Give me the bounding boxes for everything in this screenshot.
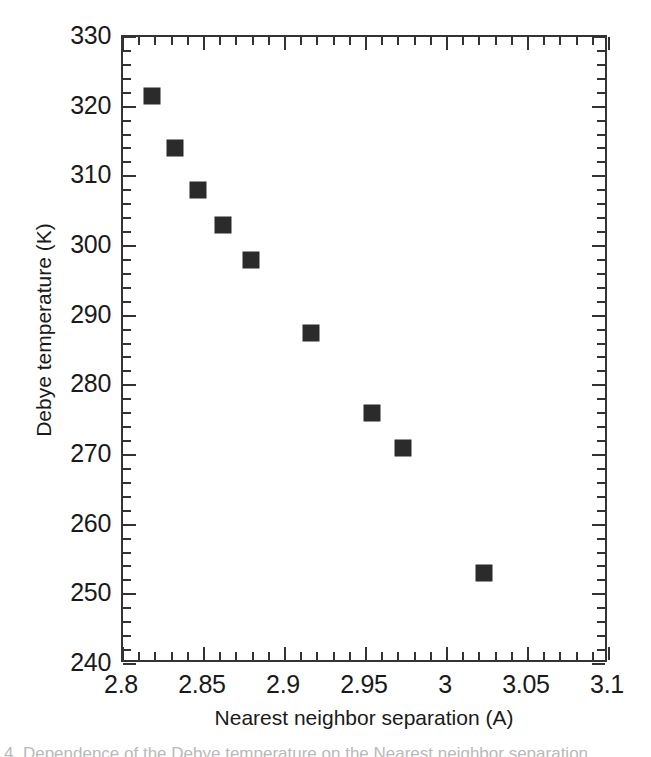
x-axis-minor-tick bbox=[430, 652, 432, 660]
y-axis-right-minor-tick bbox=[597, 468, 605, 470]
y-axis-minor-tick bbox=[123, 496, 131, 498]
x-axis-top-minor-tick bbox=[397, 37, 399, 45]
y-axis-right-minor-tick bbox=[597, 482, 605, 484]
y-axis-minor-tick bbox=[123, 343, 131, 345]
y-axis-tick-label: 250 bbox=[70, 580, 111, 605]
x-axis-top-major-tick bbox=[446, 37, 448, 50]
y-axis-right-minor-tick bbox=[597, 538, 605, 540]
y-axis-right-minor-tick bbox=[597, 92, 605, 94]
y-axis-right-minor-tick bbox=[597, 203, 605, 205]
x-axis-minor-tick bbox=[219, 652, 221, 660]
x-axis-top-minor-tick bbox=[559, 37, 561, 45]
y-axis-tick-label: 330 bbox=[70, 23, 111, 48]
x-axis-tick-label: 2.85 bbox=[178, 672, 225, 697]
x-axis-minor-tick bbox=[381, 652, 383, 660]
x-axis-tick-label: 3.05 bbox=[502, 672, 549, 697]
x-axis-minor-tick bbox=[397, 652, 399, 660]
y-axis-major-tick bbox=[123, 175, 136, 177]
y-axis-minor-tick bbox=[123, 412, 131, 414]
figure-caption-fragment: 4. Dependence of the Debye temperature o… bbox=[4, 744, 647, 757]
x-axis-top-minor-tick bbox=[171, 37, 173, 45]
y-axis-right-minor-tick bbox=[597, 607, 605, 609]
data-point-marker bbox=[189, 182, 206, 199]
y-axis-title: Debye temperature (K) bbox=[32, 50, 56, 610]
y-axis-minor-tick bbox=[123, 607, 131, 609]
y-axis-right-minor-tick bbox=[597, 120, 605, 122]
y-axis-right-minor-tick bbox=[597, 161, 605, 163]
y-axis-right-minor-tick bbox=[597, 440, 605, 442]
y-axis-minor-tick bbox=[123, 621, 131, 623]
x-axis-minor-tick bbox=[252, 652, 254, 660]
x-axis-minor-tick bbox=[495, 652, 497, 660]
x-axis-top-minor-tick bbox=[300, 37, 302, 45]
y-axis-right-minor-tick bbox=[597, 510, 605, 512]
x-axis-top-minor-tick bbox=[495, 37, 497, 45]
y-axis-minor-tick bbox=[123, 134, 131, 136]
y-axis-right-minor-tick bbox=[597, 147, 605, 149]
y-axis-major-tick bbox=[123, 106, 136, 108]
data-point-marker bbox=[302, 325, 319, 342]
y-axis-major-tick bbox=[123, 384, 136, 386]
y-axis-major-tick bbox=[123, 593, 136, 595]
x-axis-minor-tick bbox=[511, 652, 513, 660]
y-axis-major-tick bbox=[123, 454, 136, 456]
y-axis-minor-tick bbox=[123, 161, 131, 163]
y-axis-major-tick bbox=[123, 663, 136, 665]
x-axis-tick-label: 2.9 bbox=[266, 672, 300, 697]
figure: 240250260270280290300310320330 Debye tem… bbox=[0, 0, 651, 757]
y-axis-minor-tick bbox=[123, 189, 131, 191]
y-axis-minor-tick bbox=[123, 301, 131, 303]
x-axis-top-minor-tick bbox=[478, 37, 480, 45]
x-axis-title: Nearest neighbor separation (A) bbox=[121, 706, 607, 730]
y-axis-right-minor-tick bbox=[597, 78, 605, 80]
y-axis-right-major-tick bbox=[592, 663, 605, 665]
y-axis-minor-tick bbox=[123, 649, 131, 651]
x-axis-top-minor-tick bbox=[349, 37, 351, 45]
y-axis-major-tick bbox=[123, 36, 136, 38]
x-axis-major-tick bbox=[365, 647, 367, 660]
y-axis-minor-tick bbox=[123, 273, 131, 275]
y-axis-tick-label: 320 bbox=[70, 92, 111, 117]
x-axis-top-minor-tick bbox=[576, 37, 578, 45]
x-axis-minor-tick bbox=[300, 652, 302, 660]
y-axis-minor-tick bbox=[123, 510, 131, 512]
y-axis-right-major-tick bbox=[592, 36, 605, 38]
x-axis-top-minor-tick bbox=[462, 37, 464, 45]
y-axis-right-minor-tick bbox=[597, 134, 605, 136]
x-axis-top-major-tick bbox=[122, 37, 124, 50]
x-axis-minor-tick bbox=[559, 652, 561, 660]
y-axis-right-minor-tick bbox=[597, 370, 605, 372]
y-axis-right-minor-tick bbox=[597, 552, 605, 554]
x-axis-minor-tick bbox=[414, 652, 416, 660]
x-axis-minor-tick bbox=[235, 652, 237, 660]
y-axis-right-minor-tick bbox=[597, 217, 605, 219]
y-axis-right-minor-tick bbox=[597, 496, 605, 498]
y-axis-minor-tick bbox=[123, 398, 131, 400]
x-axis-top-minor-tick bbox=[252, 37, 254, 45]
y-axis-minor-tick bbox=[123, 635, 131, 637]
x-axis-minor-tick bbox=[333, 652, 335, 660]
x-axis-top-major-tick bbox=[608, 37, 610, 50]
y-axis-minor-tick bbox=[123, 440, 131, 442]
x-axis-top-minor-tick bbox=[138, 37, 140, 45]
y-axis-minor-tick bbox=[123, 50, 131, 52]
data-point-marker bbox=[215, 217, 232, 234]
y-axis-right-minor-tick bbox=[597, 329, 605, 331]
y-axis-major-tick bbox=[123, 315, 136, 317]
y-axis-right-minor-tick bbox=[597, 412, 605, 414]
y-axis-minor-tick bbox=[123, 203, 131, 205]
y-axis-tick-label: 290 bbox=[70, 301, 111, 326]
y-axis-right-minor-tick bbox=[597, 231, 605, 233]
x-axis-minor-tick bbox=[171, 652, 173, 660]
y-axis-right-major-tick bbox=[592, 454, 605, 456]
data-point-marker bbox=[476, 565, 493, 582]
data-point-marker bbox=[166, 140, 183, 157]
x-axis-top-minor-tick bbox=[219, 37, 221, 45]
y-axis-right-minor-tick bbox=[597, 50, 605, 52]
data-point-marker bbox=[364, 405, 381, 422]
x-axis-top-minor-tick bbox=[414, 37, 416, 45]
y-axis-tick-label: 280 bbox=[70, 371, 111, 396]
x-axis-major-tick bbox=[203, 647, 205, 660]
x-axis-top-major-tick bbox=[203, 37, 205, 50]
x-axis-major-tick bbox=[284, 647, 286, 660]
